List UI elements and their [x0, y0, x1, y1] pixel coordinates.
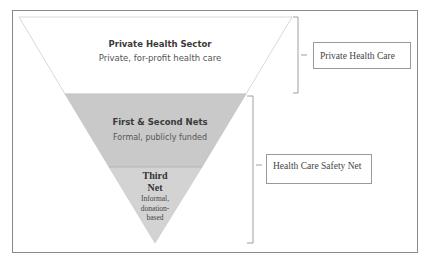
- tier-3-subtitle-line: donation-: [125, 204, 185, 214]
- tier-3-title-line: Third: [125, 170, 185, 182]
- tier-1-subtitle: Private, for-profit health care: [60, 53, 260, 63]
- label-health-care-safety-net: Health Care Safety Net: [266, 154, 372, 184]
- tier-2-subtitle: Formal, publicly funded: [60, 133, 260, 142]
- tier-3-title-line: Net: [125, 182, 185, 194]
- bracket-private-health-care: [293, 17, 307, 93]
- label-private-health-care: Private Health Care: [313, 42, 411, 69]
- tier-3-subtitle-line: Informal,: [125, 194, 185, 204]
- tier-3-subtitle-line: based: [125, 213, 185, 223]
- tier-1-title: Private Health Sector: [60, 39, 260, 49]
- tier-2-title: First & Second Nets: [60, 117, 260, 127]
- tier-3-title: Third Net: [125, 170, 185, 194]
- tier-first-second-nets: [65, 94, 246, 167]
- tier-3-subtitle: Informal, donation- based: [125, 194, 185, 223]
